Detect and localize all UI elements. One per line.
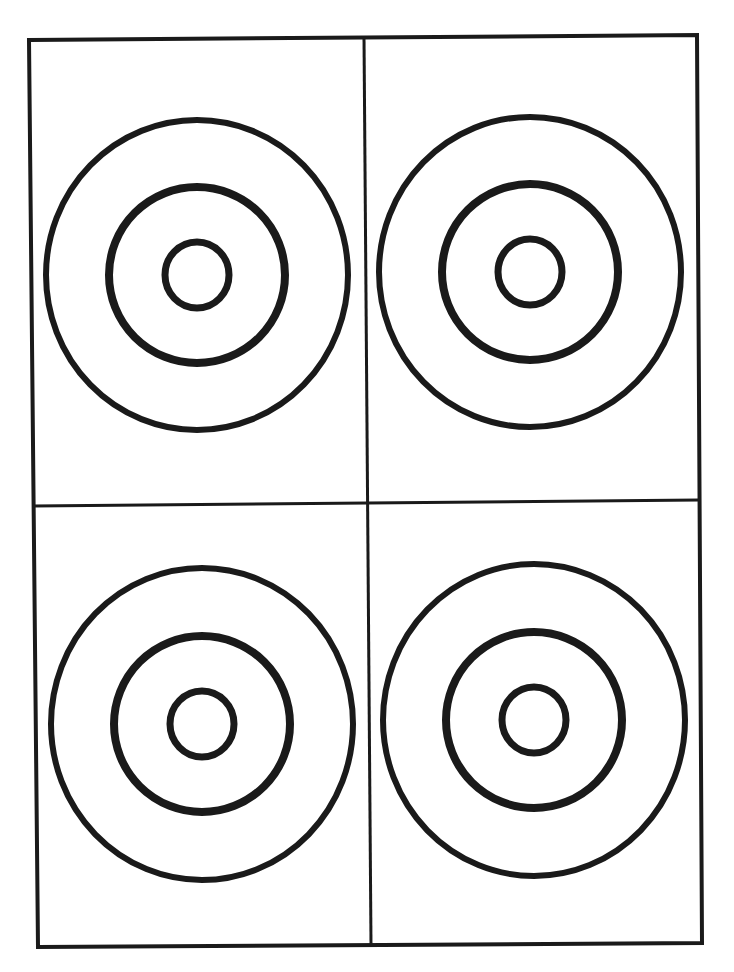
target-sheet: [0, 0, 734, 972]
